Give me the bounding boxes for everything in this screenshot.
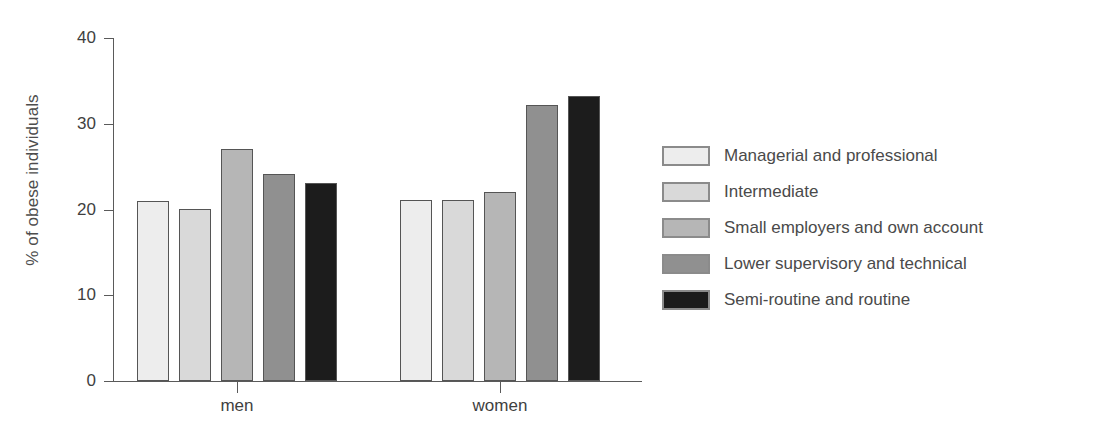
legend-swatch-icon <box>662 146 710 166</box>
legend-swatch-icon <box>662 290 710 310</box>
legend-label: Semi-routine and routine <box>724 290 910 310</box>
bar <box>305 183 337 381</box>
legend-label: Managerial and professional <box>724 146 938 166</box>
legend-label: Intermediate <box>724 182 819 202</box>
bar <box>568 96 600 381</box>
bar <box>526 105 558 381</box>
legend-item[interactable]: Managerial and professional <box>662 138 1082 174</box>
legend-swatch-icon <box>662 254 710 274</box>
bar <box>179 209 211 381</box>
bar <box>442 200 474 381</box>
x-tick-mark <box>237 382 238 393</box>
x-tick-mark <box>500 382 501 393</box>
x-axis-line <box>113 381 642 382</box>
legend-swatch-icon <box>662 182 710 202</box>
obesity-by-occupational-class-bar-chart: % of obese individuals 010203040 menwome… <box>0 0 1095 439</box>
legend-item[interactable]: Small employers and own account <box>662 210 1082 246</box>
bar <box>400 200 432 381</box>
bar <box>137 201 169 381</box>
legend-item[interactable]: Intermediate <box>662 174 1082 210</box>
y-tick-mark <box>104 381 113 382</box>
bar <box>484 192 516 382</box>
legend-label: Lower supervisory and technical <box>724 254 967 274</box>
bar <box>263 174 295 381</box>
bar <box>221 149 253 381</box>
legend-label: Small employers and own account <box>724 218 983 238</box>
x-tick-label-women: women <box>430 396 570 416</box>
legend-swatch-icon <box>662 218 710 238</box>
x-tick-label-men: men <box>167 396 307 416</box>
legend: Managerial and professionalIntermediateS… <box>662 138 1082 318</box>
legend-item[interactable]: Lower supervisory and technical <box>662 246 1082 282</box>
legend-item[interactable]: Semi-routine and routine <box>662 282 1082 318</box>
